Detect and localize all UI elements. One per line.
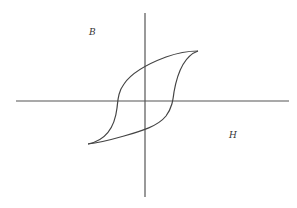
hysteresis-diagram: B H xyxy=(0,0,297,208)
diagram-svg xyxy=(0,0,297,208)
b-axis-label: B xyxy=(89,28,96,37)
h-axis-label: H xyxy=(229,131,237,140)
hysteresis-lower-branch xyxy=(88,51,198,144)
